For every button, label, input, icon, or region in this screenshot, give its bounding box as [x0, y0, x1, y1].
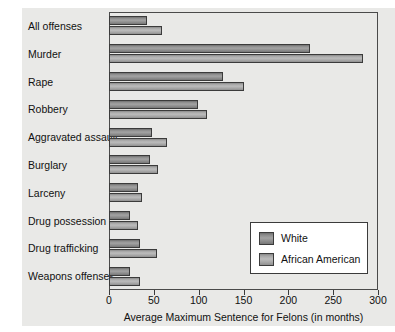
- x-tick-label-200: 200: [280, 295, 298, 306]
- category-label-murder: Murder: [28, 49, 61, 60]
- bar-robbery-african-american: [109, 110, 207, 119]
- category-label-robbery: Robbery: [28, 104, 68, 115]
- legend: White African American: [250, 222, 368, 274]
- bar-drug-trafficking-african-american: [109, 249, 157, 258]
- bar-aggravated-assault-white: [109, 128, 152, 137]
- x-tick-label-250: 250: [324, 295, 342, 306]
- x-tick-label-0: 0: [106, 295, 112, 306]
- x-tick-label-100: 100: [190, 295, 208, 306]
- bar-murder-white: [109, 44, 310, 53]
- bar-all-offenses-white: [109, 16, 147, 25]
- bar-drug-possession-african-american: [109, 221, 138, 230]
- category-label-weapons-offenses: Weapons offenses: [28, 271, 115, 282]
- x-tick-label-150: 150: [235, 295, 253, 306]
- bar-rape-african-american: [109, 82, 244, 91]
- legend-label-african-american: African American: [281, 254, 360, 265]
- bar-drug-trafficking-white: [109, 239, 140, 248]
- bar-rape-white: [109, 72, 223, 81]
- bar-burglary-white: [109, 155, 150, 164]
- bar-robbery-white: [109, 100, 198, 109]
- bar-drug-possession-white: [109, 211, 130, 220]
- x-tick-label-50: 50: [148, 295, 160, 306]
- category-label-burglary: Burglary: [28, 160, 67, 171]
- legend-swatch-white: [259, 232, 274, 245]
- bar-murder-african-american: [109, 54, 363, 63]
- category-label-drug-trafficking: Drug trafficking: [28, 243, 98, 254]
- legend-swatch-african-american: [259, 253, 274, 266]
- category-label-larceny: Larceny: [28, 188, 65, 199]
- bar-aggravated-assault-african-american: [109, 138, 167, 147]
- x-axis-title: Average Maximum Sentence for Felons (in …: [109, 311, 378, 323]
- x-tick-label-300: 300: [369, 295, 387, 306]
- bar-larceny-african-american: [109, 193, 142, 202]
- legend-item-white[interactable]: White: [259, 230, 308, 246]
- category-label-drug-possession: Drug possession: [28, 216, 106, 227]
- legend-label-white: White: [281, 233, 308, 244]
- bar-larceny-white: [109, 183, 138, 192]
- category-label-aggravated-assault: Aggravated assault: [28, 132, 118, 143]
- legend-item-african-american[interactable]: African American: [259, 251, 360, 267]
- chart-screenshot: All offensesMurderRapeRobberyAggravated …: [0, 0, 395, 332]
- category-label-all-offenses: All offenses: [28, 21, 82, 32]
- bar-all-offenses-african-american: [109, 26, 162, 35]
- bar-burglary-african-american: [109, 165, 158, 174]
- category-label-rape: Rape: [28, 77, 53, 88]
- bar-weapons-offenses-white: [109, 267, 130, 276]
- bar-weapons-offenses-african-american: [109, 277, 140, 286]
